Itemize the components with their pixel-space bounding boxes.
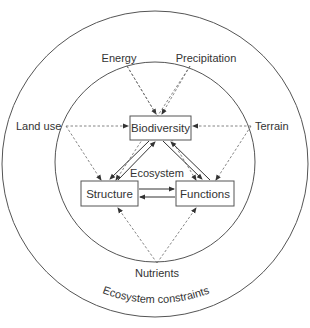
ecosystem-label: Ecosystem bbox=[130, 167, 184, 179]
node-biodiversity-label: Biodiversity bbox=[131, 122, 190, 134]
ecosystem-constraints-label: Ecosystem constraints bbox=[101, 284, 211, 306]
inner-circle-ecosystem bbox=[55, 62, 255, 262]
node-functions: Functions bbox=[176, 181, 234, 206]
driver-precipitation-label: Precipitation bbox=[176, 52, 237, 64]
node-structure: Structure bbox=[81, 181, 138, 206]
driver-land-use-label: Land use bbox=[16, 120, 61, 132]
driver-terrain-label: Terrain bbox=[255, 120, 289, 132]
node-structure-label: Structure bbox=[86, 188, 133, 200]
driver-energy-label: Energy bbox=[102, 52, 137, 64]
dashed-driver-arrows bbox=[66, 66, 251, 263]
node-biodiversity: Biodiversity bbox=[130, 116, 191, 140]
ecosystem-diagram: Biodiversity Structure Functions Ecosyst… bbox=[0, 0, 310, 328]
driver-nutrients-label: Nutrients bbox=[135, 267, 180, 279]
ecosystem-constraints-textpath: Ecosystem constraints bbox=[101, 284, 211, 306]
node-functions-label: Functions bbox=[180, 188, 230, 200]
